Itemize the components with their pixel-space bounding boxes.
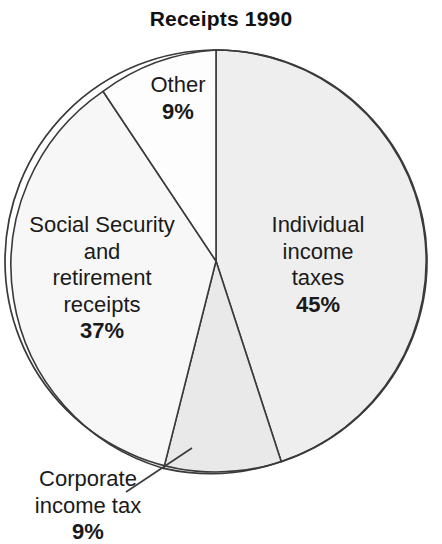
slice-label-other-name: Other: [118, 72, 238, 99]
slice-label-corporate-line2: income tax: [2, 493, 174, 520]
slice-label-corporate-percent: 9%: [2, 519, 174, 544]
slice-label-individual-line3: taxes: [253, 265, 383, 292]
slice-label-individual-line2: income: [253, 239, 383, 266]
slice-label-social-percent: 37%: [12, 318, 192, 345]
slice-label-social-line2: and: [12, 239, 192, 266]
slice-label-social-line4: receipts: [12, 292, 192, 319]
pie-chart-figure: Receipts 1990 Other 9% Individual income…: [0, 0, 442, 544]
slice-label-social-line3: retirement: [12, 265, 192, 292]
slice-label-social-security: Social Security and retirement receipts …: [12, 212, 192, 345]
slice-label-individual-line1: Individual: [253, 212, 383, 239]
slice-label-other-percent: 9%: [118, 99, 238, 126]
slice-label-corporate-income-tax: Corporate income tax 9%: [2, 466, 174, 544]
slice-label-other: Other 9%: [118, 72, 238, 125]
slice-label-corporate-line1: Corporate: [2, 466, 174, 493]
slice-label-social-line1: Social Security: [12, 212, 192, 239]
slice-label-individual-percent: 45%: [253, 292, 383, 319]
slice-label-individual-income-taxes: Individual income taxes 45%: [253, 212, 383, 318]
